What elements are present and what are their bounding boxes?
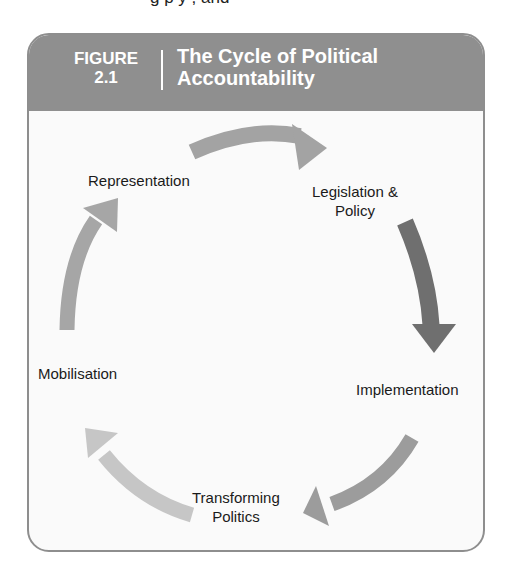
arrow-transforming-to-mobilisation-icon xyxy=(85,428,192,515)
arrow-legislation-to-implementation-icon xyxy=(405,222,456,353)
node-implementation-label: Implementation xyxy=(356,380,459,399)
node-legislation-label-line2: Policy xyxy=(312,201,398,220)
node-transforming-label-line2: Politics xyxy=(192,507,280,526)
arrow-mobilisation-to-representation-icon xyxy=(67,198,118,330)
node-implementation: Implementation xyxy=(356,380,459,399)
node-transforming-politics: Transforming Politics xyxy=(192,488,280,526)
node-representation-label: Representation xyxy=(88,171,190,190)
arrow-implementation-to-transforming-icon xyxy=(303,438,412,526)
node-legislation-label-line1: Legislation & xyxy=(312,182,398,201)
node-transforming-label-line1: Transforming xyxy=(192,488,280,507)
node-legislation-policy: Legislation & Policy xyxy=(312,182,398,220)
node-mobilisation: Mobilisation xyxy=(38,364,117,383)
node-representation: Representation xyxy=(88,171,190,190)
arrow-representation-to-legislation-icon xyxy=(192,124,327,170)
node-mobilisation-label: Mobilisation xyxy=(38,364,117,383)
